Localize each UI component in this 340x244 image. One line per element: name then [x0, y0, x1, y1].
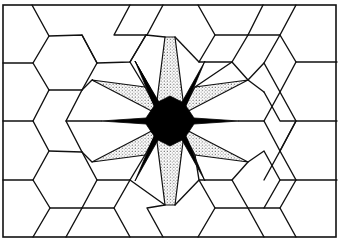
tiling-figure — [0, 0, 340, 244]
tiling-svg — [0, 0, 340, 244]
